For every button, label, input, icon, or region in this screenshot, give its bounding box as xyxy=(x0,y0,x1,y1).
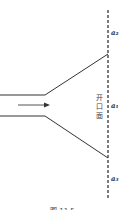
label-a2: a₂ xyxy=(111,28,119,37)
label-a3: a₃ xyxy=(111,174,119,183)
lower-waveguide-wall xyxy=(0,116,108,158)
horn-antenna-diagram: a₂ a₁ a₃ 开 口 面 图 11.5 xyxy=(0,0,123,210)
aperture-label-char-2: 口 xyxy=(96,103,103,111)
upper-waveguide-wall xyxy=(0,54,108,95)
aperture-label-char-1: 开 xyxy=(96,94,103,102)
figure-caption: 图 11.5 xyxy=(50,207,75,210)
propagation-arrow-icon xyxy=(18,103,50,108)
label-a1: a₁ xyxy=(111,101,119,110)
aperture-label-char-3: 面 xyxy=(96,112,103,120)
